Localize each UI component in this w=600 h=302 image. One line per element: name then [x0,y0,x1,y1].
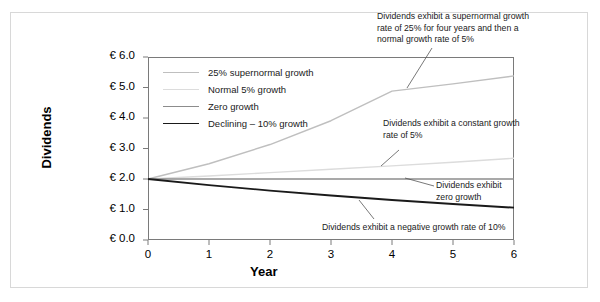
legend-item-declining: Declining – 10% growth [163,115,314,132]
x-tick-label: 2 [258,248,282,260]
leader-line-supernormal [407,48,432,88]
y-tick-label: € 3.0 [75,141,135,153]
x-tick-label: 4 [380,248,404,260]
chart-screenshot: € 0.0€ 1.0€ 2.0€ 3.0€ 4.0€ 5.0€ 6.0 0123… [0,0,600,302]
x-tick-label: 6 [502,248,526,260]
legend-label-normal: Normal 5% growth [208,84,286,95]
y-tick-label: € 1.0 [75,202,135,214]
x-tick-label: 5 [441,248,465,260]
annotation-constant-growth: Dividends exhibit a constant growth rate… [383,118,520,141]
y-tick-label: € 2.0 [75,171,135,183]
legend-swatch-normal [163,89,199,90]
legend-item-normal: Normal 5% growth [163,81,314,98]
chart-legend: 25% supernormal growth Normal 5% growth … [163,64,314,132]
legend-label-supernormal: 25% supernormal growth [208,67,314,78]
legend-swatch-declining [163,123,199,124]
annotation-zero-growth: Dividends exhibit zero growth [436,180,502,203]
x-tick-label: 3 [319,248,343,260]
y-tick-label: € 4.0 [75,110,135,122]
y-tick-label: € 6.0 [75,49,135,61]
x-tick-label: 0 [136,248,160,260]
legend-item-zero: Zero growth [163,98,314,115]
legend-swatch-supernormal [163,72,199,73]
y-axis-ticks [143,57,148,240]
x-axis-ticks [148,240,514,245]
legend-label-zero: Zero growth [208,101,259,112]
annotation-supernormal: Dividends exhibit a supernormal growth r… [377,11,529,46]
legend-item-supernormal: 25% supernormal growth [163,64,314,81]
leader-line-negative [359,200,374,219]
y-axis-title: Dividends [39,78,54,198]
x-axis-title: Year [250,264,277,279]
x-tick-label: 1 [197,248,221,260]
annotation-negative-growth: Dividends exhibit a negative growth rate… [322,222,506,234]
y-tick-label: € 0.0 [75,232,135,244]
legend-swatch-zero [163,106,199,107]
legend-label-declining: Declining – 10% growth [208,118,308,129]
y-tick-label: € 5.0 [75,80,135,92]
leader-line-constant [381,150,399,166]
series-line [148,158,514,179]
